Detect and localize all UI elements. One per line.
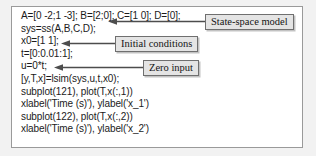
callout-initial-conditions: Initial conditions — [115, 36, 198, 52]
code-line: xlabel('Time (s)'), ylabel('x_2') — [21, 123, 297, 136]
screenshot-root: A=[0 -2;1 -3]; B=[2;0]; C=[1 0]; D=[0]; … — [0, 0, 316, 156]
arrow-zero-input-icon — [54, 64, 144, 71]
arrow-initial-conditions-icon — [61, 40, 116, 47]
code-line: xlabel('Time (s)'), ylabel('x_1') — [21, 98, 297, 111]
callout-zero-input: Zero input — [143, 60, 199, 76]
arrow-state-space-icon — [108, 18, 206, 25]
code-line: subplot(122), plot(T,x(:,2)) — [21, 111, 297, 124]
callout-state-space-model: State-space model — [205, 14, 294, 30]
code-line: subplot(121), plot(T,x(:,1)) — [21, 86, 297, 99]
